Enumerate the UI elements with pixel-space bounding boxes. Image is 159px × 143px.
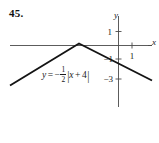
fraction-denominator: 2 <box>60 74 66 83</box>
y-tick-label-negative-one: −1 <box>103 54 113 64</box>
equation-lhs: y <box>42 70 46 80</box>
equation-equals: = <box>48 70 53 80</box>
equation-fraction: 1 2 <box>60 66 66 83</box>
x-tick-label-one: 1 <box>130 51 135 61</box>
absolute-bar-open: | <box>67 71 69 80</box>
equation-inner-constant: 4 <box>82 70 87 80</box>
fraction-numerator: 1 <box>60 66 66 74</box>
equation-inner-plus: + <box>75 70 80 80</box>
y-tick-label-one: 1 <box>108 27 113 37</box>
equation-minus-sign: − <box>55 70 60 80</box>
equation-inner-variable: x <box>69 70 73 80</box>
y-axis-label: y <box>113 10 118 20</box>
figure-container: 45. y x 1 −1 −3 1 y = − 1 2 | <box>0 0 159 143</box>
equation-annotation: y = − 1 2 | x + 4 | <box>42 66 89 83</box>
y-tick-label-negative-three: −3 <box>103 74 113 84</box>
x-axis-label: x <box>151 37 156 47</box>
absolute-bar-close: | <box>87 71 89 80</box>
